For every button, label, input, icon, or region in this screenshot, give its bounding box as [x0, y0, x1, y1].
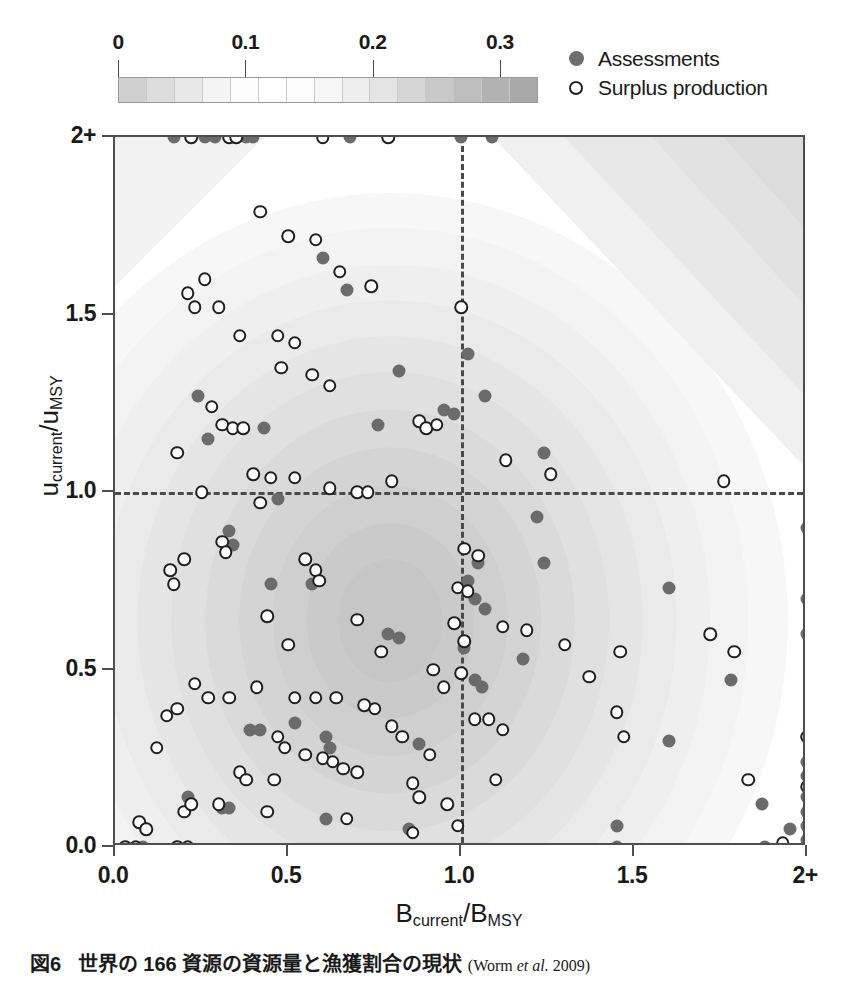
data-point-assess-2: [209, 135, 222, 144]
data-point-surplus-48: [472, 549, 486, 563]
x-axis-sub-2: MSY: [488, 911, 523, 929]
data-point-surplus-119: [267, 773, 281, 787]
legend-label-surplus-production: Surplus production: [598, 76, 768, 100]
colorbar-tick-3: [500, 60, 501, 78]
data-point-assess-19: [538, 446, 551, 459]
data-point-surplus-101: [489, 773, 503, 787]
data-point-assess-8: [316, 251, 329, 264]
colorbar-segment-10: [398, 78, 426, 102]
data-point-surplus-72: [288, 691, 302, 705]
data-point-surplus-43: [219, 546, 233, 560]
colorbar-tick-label-0: 0: [112, 30, 123, 54]
data-point-surplus-27: [264, 471, 278, 485]
data-point-assess-57: [801, 521, 806, 534]
data-point-surplus-88: [800, 730, 805, 744]
colorbar-tick-0: [118, 60, 119, 78]
data-point-surplus-21: [205, 400, 219, 414]
y-axis-sub-2: MSY: [47, 375, 65, 410]
data-point-surplus-5: [254, 205, 268, 219]
colorbar-tick-label-3: 0.3: [486, 30, 514, 54]
data-point-assess-64: [801, 805, 806, 818]
data-point-assess-10: [461, 347, 474, 360]
data-point-assess-53: [610, 819, 623, 832]
data-point-assess-7: [486, 135, 499, 144]
data-point-assess-58: [801, 592, 806, 605]
data-point-surplus-47: [458, 542, 472, 556]
data-point-surplus-41: [177, 553, 191, 567]
legend-item-surplus-production: Surplus production: [563, 73, 843, 102]
y-tick-3: [102, 313, 113, 315]
data-point-assess-23: [531, 510, 544, 523]
colorbar-segment-6: [287, 78, 315, 102]
data-point-surplus-106: [184, 798, 198, 812]
data-point-surplus-13: [364, 279, 378, 293]
y-axis-sub-1: current: [47, 432, 65, 482]
y-axis-base-1: u: [34, 482, 64, 496]
data-point-assess-9: [340, 283, 353, 296]
data-point-surplus-52: [458, 634, 472, 648]
y-tick-0: [102, 845, 113, 847]
colorbar-ticks: [118, 60, 538, 78]
data-point-surplus-60: [164, 563, 178, 577]
data-point-surplus-6: [281, 230, 295, 244]
data-point-surplus-115: [260, 805, 274, 819]
colorbar-tick-label-1: 0.1: [231, 30, 259, 54]
data-point-surplus-110: [129, 840, 143, 845]
data-point-surplus-87: [776, 837, 790, 845]
y-tick-label-2: 1.0: [66, 477, 96, 504]
data-point-surplus-19: [305, 368, 319, 382]
data-point-surplus-24: [236, 421, 250, 435]
colorbar-segment-0: [119, 78, 147, 102]
colorbar-segment-1: [147, 78, 175, 102]
data-point-surplus-99: [423, 748, 437, 762]
colorbar-segment-12: [454, 78, 482, 102]
data-point-assess-36: [475, 681, 488, 694]
data-point-assess-34: [264, 578, 277, 591]
colorbar-tick-2: [373, 60, 374, 78]
colorbar-segment-3: [203, 78, 231, 102]
data-point-surplus-83: [582, 670, 596, 684]
data-point-surplus-0: [184, 135, 198, 144]
x-tick-label-0: 0.0: [98, 862, 128, 889]
legend-label-assessments: Assessments: [598, 47, 720, 71]
caption-number: 図6: [30, 953, 61, 975]
data-point-surplus-33: [544, 468, 558, 482]
data-point-surplus-14: [454, 301, 468, 315]
data-point-assess-4: [247, 135, 260, 144]
data-point-surplus-66: [202, 691, 216, 705]
data-point-surplus-2: [229, 135, 243, 144]
data-point-surplus-9: [198, 272, 212, 286]
caption-text: 世界の 166 資源の資源量と漁獲割合の現状: [78, 953, 462, 975]
data-point-surplus-95: [337, 762, 351, 776]
legend: Assessments Surplus production: [563, 44, 843, 102]
data-point-surplus-20: [323, 379, 337, 393]
data-point-surplus-92: [299, 748, 313, 762]
data-point-assess-11: [392, 365, 405, 378]
data-point-surplus-82: [496, 723, 510, 737]
data-point-surplus-62: [350, 613, 364, 627]
data-point-surplus-86: [741, 773, 755, 787]
data-point-assess-61: [801, 755, 806, 768]
colorbar-tick-1: [245, 60, 246, 78]
data-point-surplus-69: [150, 741, 164, 755]
data-point-surplus-96: [350, 766, 364, 780]
data-point-assess-51: [662, 734, 675, 747]
data-point-surplus-40: [254, 496, 268, 510]
data-point-surplus-26: [247, 468, 261, 482]
data-point-surplus-7: [309, 233, 323, 247]
plot-area: [113, 135, 805, 845]
colorbar-segment-7: [315, 78, 343, 102]
data-point-surplus-78: [437, 681, 451, 695]
data-point-surplus-28: [288, 471, 302, 485]
data-point-surplus-76: [368, 702, 382, 716]
data-point-surplus-51: [447, 617, 461, 631]
data-point-surplus-65: [188, 677, 202, 691]
data-point-surplus-4: [382, 135, 396, 144]
data-point-surplus-91: [278, 741, 292, 755]
data-point-surplus-8: [333, 265, 347, 279]
data-point-assess-13: [192, 390, 205, 403]
data-point-assess-20: [271, 493, 284, 506]
data-point-surplus-70: [160, 709, 174, 723]
data-point-surplus-77: [427, 663, 441, 677]
x-tick-1: [286, 845, 288, 856]
